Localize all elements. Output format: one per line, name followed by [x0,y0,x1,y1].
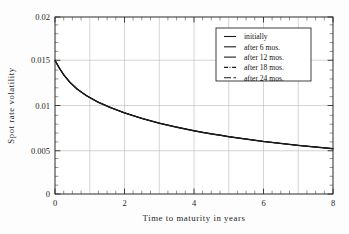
y-tick-label-4: 0.02 [35,12,50,22]
x-tick-label-0: 0 [53,198,57,208]
y-tick-label-0: 0 [46,189,50,199]
x-tick-label-2: 4 [192,198,197,208]
legend-label-after-12-mos: after 12 mos. [244,53,284,62]
spot-rate-volatility-chart: 0.02 0.015 0.01 0.005 0 0 2 4 6 8 Time t… [0,0,349,234]
chart-figure: 0.02 0.015 0.01 0.005 0 0 2 4 6 8 Time t… [0,0,349,234]
legend-label-after-18-mos: after 18 mos. [244,63,284,72]
x-tick-label-1: 2 [122,198,126,208]
legend-label-after-6-mos: after 6 mos. [244,43,280,52]
y-tick-label-3: 0.015 [31,55,50,65]
x-tick-label-3: 6 [261,198,265,208]
legend-label-initially: initially [244,32,268,41]
y-axis-title: Spot rate volatility [6,67,16,144]
legend-label-after-24-mos: after 24 mos. [244,74,284,83]
y-tick-label-1: 0.005 [31,146,50,156]
x-tick-label-4: 8 [331,198,335,208]
chart-legend: initially after 6 mos. after 12 mos. aft… [216,28,311,83]
y-tick-label-2: 0.01 [35,101,50,111]
x-axis-title: Time to maturity in years [143,213,246,223]
